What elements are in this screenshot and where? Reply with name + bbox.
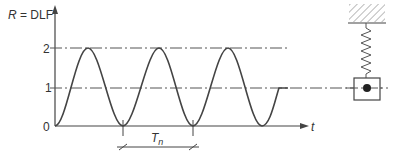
period-label: Tn (151, 131, 163, 147)
response-curve (55, 48, 288, 126)
dlf-diagram: R = DLF 2 1 0 t Tn (0, 0, 397, 157)
y-axis-label: R = DLF (8, 8, 53, 22)
mass-point-icon (363, 84, 371, 92)
spring-mass-model (346, 4, 388, 100)
fixed-support-hatch (349, 4, 385, 22)
tick-label-0: 0 (43, 120, 50, 134)
tick-label-1: 1 (45, 81, 52, 95)
spring-icon (361, 23, 371, 78)
tick-label-2: 2 (43, 42, 50, 56)
x-axis-arrow-icon (300, 123, 309, 129)
x-axis-label: t (311, 120, 315, 134)
